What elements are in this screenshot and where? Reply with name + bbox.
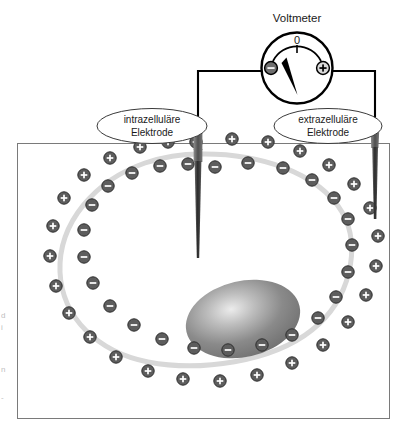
negative-charge — [87, 277, 99, 289]
voltmeter-minus-terminal[interactable] — [265, 62, 278, 75]
positive-charge — [44, 250, 56, 262]
positive-charge — [50, 280, 62, 292]
negative-charge — [126, 167, 138, 179]
voltmeter-title: Voltmeter — [273, 12, 322, 24]
negative-charge — [256, 339, 268, 351]
negative-charge — [78, 251, 90, 263]
positive-charge — [342, 316, 354, 328]
positive-charge — [63, 307, 75, 319]
positive-charge — [84, 331, 96, 343]
figure-canvas: d i n - 0 Voltmeter — [0, 0, 396, 443]
negative-charge — [342, 266, 354, 278]
positive-charge — [370, 260, 382, 272]
voltmeter-plus-terminal[interactable] — [317, 62, 330, 75]
negative-charge — [156, 333, 168, 345]
wire-left — [198, 71, 262, 133]
callout-extracellular-line1: extrazelluläre — [298, 114, 358, 125]
voltmeter[interactable]: 0 Voltmeter — [262, 12, 333, 104]
svg-text:n: n — [1, 365, 5, 374]
negative-charge — [102, 180, 114, 192]
svg-text:-: - — [1, 393, 4, 402]
negative-charge — [78, 224, 90, 236]
svg-text:d: d — [1, 311, 5, 320]
svg-text:i: i — [1, 323, 3, 332]
negative-charge — [277, 162, 289, 174]
callout-intracellular-line1: intrazelluläre — [124, 114, 181, 125]
positive-charge — [226, 133, 238, 145]
positive-charge — [251, 369, 263, 381]
positive-charge — [317, 339, 329, 351]
positive-charge — [177, 373, 189, 385]
positive-charge — [286, 357, 298, 369]
negative-charge — [312, 312, 324, 324]
negative-charge — [209, 161, 221, 173]
callout-extracellular-line2: Elektrode — [307, 127, 350, 138]
negative-charge — [188, 342, 200, 354]
negative-charge — [286, 329, 298, 341]
callout-intracellular-line2: Elektrode — [131, 127, 174, 138]
positive-charge — [372, 230, 384, 242]
negative-charge — [222, 344, 234, 356]
negative-charge — [86, 199, 98, 211]
callout-intracellular-electrode: intrazelluläre Elektrode — [97, 109, 207, 144]
positive-charge — [58, 192, 70, 204]
negative-charge — [242, 157, 254, 169]
page-margin-text-fragments: d i n - — [1, 311, 5, 402]
callout-extracellular-electrode: extrazelluläre Elektrode — [274, 109, 382, 144]
voltmeter-zero-label: 0 — [294, 34, 300, 46]
negative-charge — [330, 291, 342, 303]
negative-charge — [128, 319, 140, 331]
negative-charge — [342, 213, 354, 225]
positive-charge — [360, 289, 372, 301]
negative-charge — [104, 300, 116, 312]
negative-charge — [182, 158, 194, 170]
positive-charge — [110, 351, 122, 363]
negative-charge — [154, 160, 166, 172]
positive-charge — [323, 159, 335, 171]
positive-charge — [78, 169, 90, 181]
positive-charge — [47, 220, 59, 232]
negative-charge — [328, 192, 340, 204]
positive-charge — [348, 178, 360, 190]
negative-charge — [346, 239, 358, 251]
positive-charge — [142, 365, 154, 377]
positive-charge — [104, 152, 116, 164]
positive-charge — [214, 375, 226, 387]
negative-charge — [306, 174, 318, 186]
positive-charge — [262, 136, 274, 148]
positive-charge — [294, 145, 306, 157]
